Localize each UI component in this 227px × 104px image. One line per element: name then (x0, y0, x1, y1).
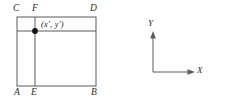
y-axis-label: Y (148, 19, 153, 28)
vertex-label-f: F (32, 4, 38, 14)
interior-point-label: (x', y') (41, 20, 64, 29)
vertex-label-d: D (90, 4, 97, 14)
y-axis-arrowhead (150, 31, 156, 39)
vertex-label-e: E (31, 88, 37, 98)
vertex-label-a: A (14, 88, 20, 98)
axes-diagram-group (150, 31, 195, 75)
x-axis-label: X (197, 66, 203, 75)
vertex-label-b: B (91, 88, 97, 98)
interior-point-marker (32, 28, 38, 34)
vertex-label-c: C (13, 4, 20, 14)
x-axis-arrowhead (188, 69, 196, 75)
figure-canvas: C F D A E B (x', y') Y X (0, 0, 227, 104)
